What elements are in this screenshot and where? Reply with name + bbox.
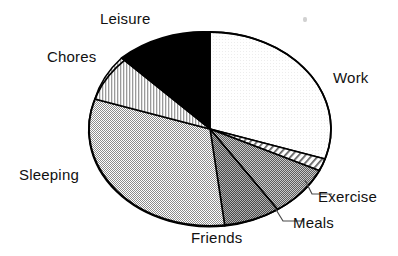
pie-label-leisure: Leisure	[100, 10, 151, 27]
pie-chart-canvas	[0, 0, 398, 256]
pie-label-sleeping: Sleeping	[19, 166, 79, 183]
pie-label-meals: Meals	[293, 214, 334, 231]
pie-label-work: Work	[333, 69, 369, 86]
pie-label-chores: Chores	[47, 48, 97, 65]
pie-chart-figure: Work Exercise Meals Friends Sleeping Cho…	[0, 0, 398, 256]
scan-artifact-speck	[303, 17, 307, 22]
pie-label-exercise: Exercise	[318, 188, 377, 205]
pie-label-friends: Friends	[191, 229, 242, 246]
